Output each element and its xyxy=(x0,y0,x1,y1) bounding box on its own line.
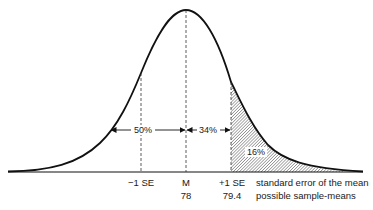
bell-curve xyxy=(8,10,363,172)
tick-label-mean: M xyxy=(182,177,190,188)
label-16-percent: 16% xyxy=(245,147,267,157)
value-label-mean: 78 xyxy=(181,190,192,201)
label-50-percent: 50% xyxy=(132,125,154,135)
row-label-standard-error: standard error of the mean xyxy=(256,177,368,188)
tick-label-plus1-se: +1 SE xyxy=(219,177,245,188)
value-label-plus1-se: 79.4 xyxy=(223,190,242,201)
label-34-percent: 34% xyxy=(197,125,219,135)
row-label-sample-means: possible sample-means xyxy=(256,190,356,201)
tick-label-minus1-se: −1 SE xyxy=(128,177,154,188)
